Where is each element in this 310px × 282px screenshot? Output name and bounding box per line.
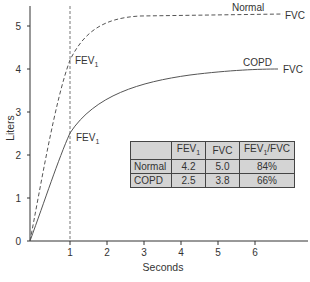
svg-text:1: 1 (15, 193, 21, 204)
svg-text:3: 3 (15, 107, 21, 118)
svg-text:5: 5 (215, 247, 221, 258)
svg-text:4: 4 (15, 64, 21, 75)
header-fev1: FEV1 (172, 142, 206, 160)
svg-text:0: 0 (15, 236, 21, 247)
copd-label: COPD (243, 57, 272, 68)
copd-fev1-label: FEV1 (76, 132, 99, 145)
spirometry-summary-table: FEV1 FVC FEV1/FVC Normal 4.2 5.0 84% COP… (130, 141, 295, 188)
normal-fvc-label: FVC (285, 10, 305, 21)
header-ratio: FEV1/FVC (240, 142, 295, 160)
cell-fvc: 5.0 (206, 160, 240, 174)
y-axis-title: Liters (4, 115, 16, 141)
x-tick-labels: 1 2 3 4 5 6 (67, 247, 258, 258)
svg-text:2: 2 (104, 247, 110, 258)
copd-fvc-label: FVC (283, 64, 303, 75)
row-label: Normal (131, 160, 172, 174)
cell-fev1: 2.5 (172, 174, 206, 188)
svg-text:5: 5 (15, 21, 21, 32)
table-row: Normal 4.2 5.0 84% (131, 160, 295, 174)
svg-text:3: 3 (141, 247, 147, 258)
svg-text:2: 2 (15, 150, 21, 161)
cell-fvc: 3.8 (206, 174, 240, 188)
svg-text:4: 4 (178, 247, 184, 258)
normal-label: Normal (232, 2, 264, 13)
y-tick-labels: 0 1 2 3 4 5 (15, 21, 21, 247)
header-fvc: FVC (206, 142, 240, 160)
table-row: COPD 2.5 3.8 66% (131, 174, 295, 188)
svg-text:1: 1 (67, 247, 73, 258)
cell-ratio: 84% (240, 160, 295, 174)
row-label: COPD (131, 174, 172, 188)
cell-fev1: 4.2 (172, 160, 206, 174)
normal-fev1-label: FEV1 (75, 55, 98, 68)
x-axis-title: Seconds (143, 261, 184, 273)
normal-curve (30, 14, 283, 241)
svg-text:6: 6 (252, 247, 258, 258)
cell-ratio: 66% (240, 174, 295, 188)
table-header-row: FEV1 FVC FEV1/FVC (131, 142, 295, 160)
x-ticks (70, 241, 255, 245)
header-empty (131, 142, 172, 160)
